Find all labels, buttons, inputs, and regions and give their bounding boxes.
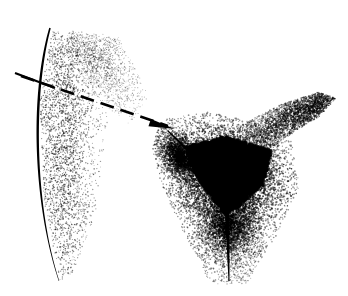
stipple-canvas <box>0 0 348 296</box>
anatomical-figure: Black and white stipple-shaded medical l… <box>0 0 348 296</box>
